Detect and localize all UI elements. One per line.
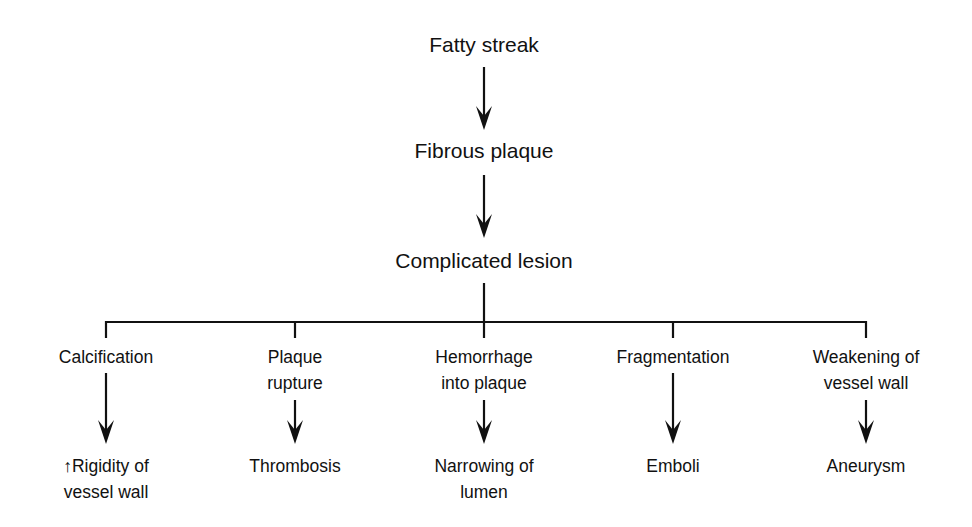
node-label: vessel wall [813, 370, 920, 396]
node-label: rupture [267, 370, 322, 396]
node-label: ↑Rigidity of [63, 453, 149, 479]
node-emboli: Emboli [646, 453, 700, 479]
node-label: Weakening of [813, 344, 920, 370]
node-label: Fibrous plaque [415, 139, 554, 163]
node-label: Narrowing of [434, 453, 533, 479]
node-label: Calcification [59, 344, 153, 370]
node-label: Plaque [267, 344, 322, 370]
node-label: Emboli [646, 453, 700, 479]
node-weakening: Weakening of vessel wall [813, 344, 920, 396]
node-label: Fragmentation [617, 344, 730, 370]
node-complicated-lesion: Complicated lesion [395, 249, 572, 273]
node-fragmentation: Fragmentation [617, 344, 730, 370]
node-label: vessel wall [63, 479, 149, 505]
node-label: Fatty streak [429, 33, 539, 57]
node-label: Complicated lesion [395, 249, 572, 273]
node-aneurysm: Aneurysm [827, 453, 906, 479]
node-label: Thrombosis [249, 453, 340, 479]
node-fatty-streak: Fatty streak [429, 33, 539, 57]
node-label: lumen [434, 479, 533, 505]
node-thrombosis: Thrombosis [249, 453, 340, 479]
node-label: Hemorrhage [435, 344, 532, 370]
node-narrowing: Narrowing of lumen [434, 453, 533, 505]
node-label: into plaque [435, 370, 532, 396]
node-label: Aneurysm [827, 453, 906, 479]
node-plaque-rupture: Plaque rupture [267, 344, 322, 396]
node-hemorrhage: Hemorrhage into plaque [435, 344, 532, 396]
node-calcification: Calcification [59, 344, 153, 370]
node-fibrous-plaque: Fibrous plaque [415, 139, 554, 163]
node-rigidity: ↑Rigidity of vessel wall [63, 453, 149, 505]
